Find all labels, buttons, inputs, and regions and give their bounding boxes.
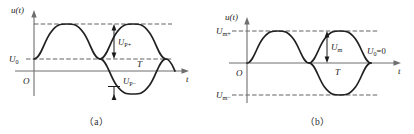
dc-level-label-a: U0	[9, 54, 19, 65]
origin-label-b: O	[236, 68, 243, 78]
peak-negative-label-a-sub: P−	[129, 80, 136, 87]
peak-positive-label-b-sub: m+	[223, 30, 232, 37]
peak-positive-label-a: UP+	[118, 37, 132, 48]
x-axis-label-b: t	[398, 66, 401, 76]
period-label-a: T	[137, 59, 143, 69]
peak-negative-label-b: Um−	[216, 90, 231, 101]
x-axis-arrowhead-a	[182, 68, 190, 73]
peak-negative-label-a: UP−	[123, 76, 137, 87]
figure-root: u(t) t O U0 UP+ UP− T （a）	[0, 0, 414, 134]
x-axis-label-a: t	[186, 74, 189, 84]
panel-caption-a: （a）	[0, 114, 200, 128]
y-axis-arrowhead-a	[31, 10, 36, 18]
measurement-arrow-trough-a	[112, 94, 117, 100]
figure-panel-a: u(t) t O U0 UP+ UP− T （a）	[0, 0, 207, 134]
peak-negative-label-b-sub: m−	[223, 94, 232, 101]
peak-positive-label-a-sub: P+	[124, 41, 131, 48]
measurement-arrow-up-a	[112, 24, 117, 31]
amplitude-label-b: Um	[331, 42, 343, 53]
waveform-chart-a: u(t) t O U0 UP+ UP− T	[0, 0, 207, 112]
measurement-arrow-down-a	[112, 53, 117, 60]
peak-positive-label-b: Um+	[216, 26, 231, 37]
figure-panel-b: u(t) t O Um+ Um− Um U0=0 T （b）	[207, 0, 414, 134]
y-axis-arrowhead-b	[244, 17, 249, 25]
panel-caption-b: （b）	[214, 114, 414, 128]
amplitude-label-b-sub: m	[338, 46, 343, 53]
x-axis-arrowhead-b	[394, 60, 402, 65]
origin-label-a: O	[23, 76, 30, 86]
measurement-arrow-down-b	[325, 57, 330, 64]
dc-level-label-a-sub: 0	[16, 58, 19, 65]
dc-zero-label-b-suffix: =0	[377, 46, 386, 56]
period-label-b: T	[335, 67, 341, 77]
y-axis-label-b: u(t)	[225, 12, 238, 22]
dc-zero-label-b: U0=0	[367, 46, 386, 57]
y-axis-label-a: u(t)	[11, 5, 24, 15]
waveform-chart-b: u(t) t O Um+ Um− Um U0=0 T	[207, 0, 414, 112]
